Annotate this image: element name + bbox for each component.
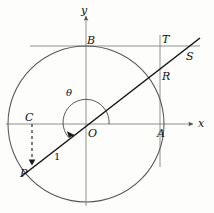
- point-label-o: O: [88, 128, 97, 139]
- y-axis-label: y: [81, 5, 87, 16]
- point-label-t: T: [162, 34, 169, 45]
- point-label-r: R: [162, 71, 170, 82]
- figure-canvas: [0, 0, 214, 213]
- point-label-p: P: [20, 168, 27, 179]
- x-axis-label: x: [198, 118, 204, 129]
- angle-label-theta: θ: [66, 88, 72, 98]
- point-label-c: C: [25, 112, 33, 123]
- point-label-b: B: [87, 35, 95, 46]
- point-label-a: A: [157, 128, 165, 139]
- terminal-ray-secant: [22, 38, 200, 176]
- trigonometry-figure: y x B T S R C A O P θ 1: [0, 0, 214, 213]
- point-label-s: S: [186, 51, 194, 62]
- radius-length-label: 1: [54, 152, 60, 162]
- dashed-perpendicular-arrowhead: [29, 160, 36, 166]
